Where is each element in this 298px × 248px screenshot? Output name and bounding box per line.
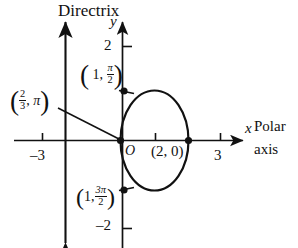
point-left-vertex [117,137,124,144]
polar-axis-label-line2: axis [254,142,278,157]
theta-pi: π [33,94,40,108]
point-label-right-vertex: (2, 0) [151,144,184,159]
fraction-pi-over-2: π2 [107,63,114,85]
close-paren: ) [40,93,49,110]
close-paren: ) [114,67,123,84]
open-paren: ( [76,190,84,205]
radius-value: 1, [93,68,104,82]
point-label-top: ( 1, π2) [80,64,123,86]
fraction-3pi-over-2: 3π2 [95,185,107,207]
polar-axis-label-line1: Polar [254,119,286,134]
x-axis-symbol: x [245,121,252,136]
y-axis-symbol: y [110,14,117,29]
radius-value: 1, [84,190,95,204]
fraction-two-thirds: 23 [19,89,26,111]
point-label-bottom: (1,3π2) [76,186,115,208]
comma: , [26,94,30,108]
origin-label: O [125,144,135,158]
x-tick-label-3: 3 [214,148,222,163]
y-tick-label-2: 2 [104,38,112,53]
y-tick-label--2: –2 [96,218,111,233]
leader-line-left-vertex [58,108,119,139]
open-paren: ( [10,93,19,110]
point-label-left-vertex: (23, π) [10,90,49,112]
point-bottom [120,186,127,193]
point-right-vertex [185,137,192,144]
x-tick-label--3: –3 [30,148,45,163]
open-paren: ( [80,67,89,84]
close-paren: ) [107,190,115,205]
